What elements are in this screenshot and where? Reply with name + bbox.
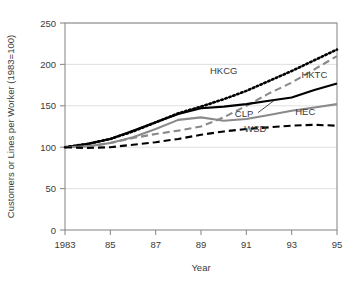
x-tick-label: 95 [332,239,343,250]
series-label-hkcg: HKCG [210,65,237,76]
x-tick-label: 89 [196,239,207,250]
y-tick-label: 150 [40,100,56,111]
x-tick-label: 93 [286,239,297,250]
y-axis-tick-labels: 050100150200250 [40,18,56,236]
y-tick-label: 250 [40,18,56,29]
y-tick-label: 50 [45,183,56,194]
series-label-hktc: HKTC [301,69,327,80]
y-axis-ticks [60,23,65,230]
x-tick-label: 87 [150,239,161,250]
y-tick-label: 0 [51,225,56,236]
y-tick-label: 200 [40,59,56,70]
series-label-wsd: WSD [244,123,266,134]
series-label-clp: CLP [235,108,253,119]
line-chart: 050100150200250 1983858789919395 HKCGHKT… [0,0,356,287]
x-axis-tick-labels: 1983858789919395 [54,239,342,250]
x-axis-title: Year [191,262,210,273]
y-axis-title: Customers or Lines per Worker (1983=100) [5,35,16,218]
series-labels: HKCGHKTCCLPHECWSD [210,65,327,134]
y-tick-label: 100 [40,142,56,153]
chart-container: 050100150200250 1983858789919395 HKCGHKT… [0,0,356,287]
x-tick-label: 85 [105,239,116,250]
x-tick-label: 91 [241,239,252,250]
series-label-hec: HEC [295,106,315,117]
x-axis-ticks [65,230,337,235]
x-tick-label: 1983 [54,239,75,250]
